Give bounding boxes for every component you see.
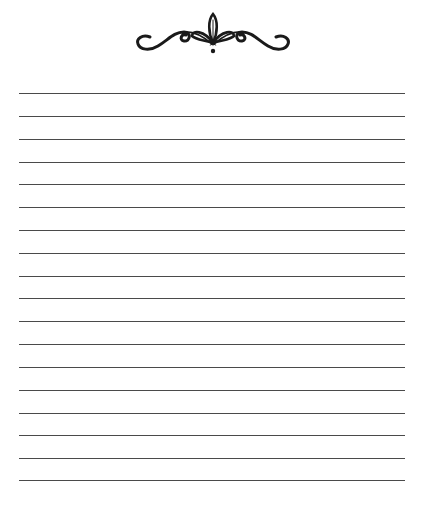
ruled-line [19, 230, 405, 231]
ruled-line [19, 480, 405, 481]
ruled-line [19, 435, 405, 436]
ruled-line [19, 276, 405, 277]
ruled-line [19, 139, 405, 140]
ruled-line [19, 162, 405, 163]
ruled-line [19, 116, 405, 117]
ruled-line [19, 390, 405, 391]
ruled-line [19, 458, 405, 459]
ruled-line [19, 413, 405, 414]
ruled-line [19, 321, 405, 322]
ruled-line [19, 344, 405, 345]
ruled-line [19, 207, 405, 208]
ruled-line [19, 253, 405, 254]
ruled-line [19, 93, 405, 94]
ruled-line [19, 298, 405, 299]
ruled-line [19, 367, 405, 368]
ruled-lines [0, 0, 425, 513]
ruled-line [19, 184, 405, 185]
